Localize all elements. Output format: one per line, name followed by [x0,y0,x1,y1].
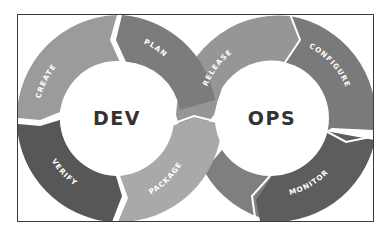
ops-label: OPS [248,107,296,129]
devops-diagram: CREATE PLAN VERIFY PACKAGE RELEASE CONFI… [0,0,392,238]
dev-label: DEV [93,107,141,129]
infinity-loop: CREATE PLAN VERIFY PACKAGE RELEASE CONFI… [0,0,392,238]
